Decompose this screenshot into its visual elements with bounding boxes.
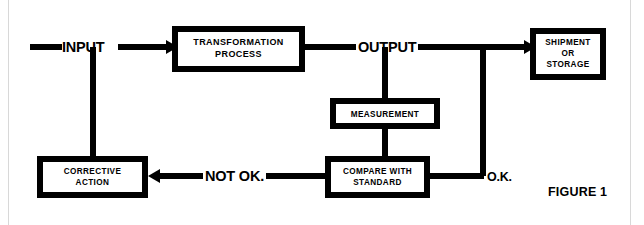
node-transformation-process-line-2: PROCESS (215, 49, 262, 59)
flow-label-not-ok: NOT OK. (205, 168, 264, 184)
node-compare-with-standard-line-1: COMPARE WITH (343, 167, 412, 176)
flow-label-output: OUTPUT (358, 39, 417, 55)
node-measurement[interactable]: MEASUREMENT (333, 101, 437, 126)
node-compare-with-standard-line-2: STANDARD (353, 178, 402, 187)
node-shipment-or-storage-line-1: SHIPMENT (545, 38, 591, 47)
node-shipment-or-storage-line-2: OR (561, 49, 574, 58)
node-compare-with-standard[interactable]: COMPARE WITH STANDARD (328, 159, 427, 195)
node-compare-with-standard-frame (328, 159, 427, 195)
node-shipment-or-storage-line-3: STORAGE (546, 60, 589, 69)
node-measurement-label: MEASUREMENT (351, 110, 420, 119)
figure-canvas: TRANSFORMATION PROCESS SHIPMENT OR STORA… (0, 0, 644, 225)
node-transformation-process-line-1: TRANSFORMATION (193, 37, 283, 47)
arrowhead-into-corrective-action (148, 169, 160, 183)
flow-label-input: INPUT (62, 39, 105, 55)
figure-caption: FIGURE 1 (548, 185, 607, 199)
flow-label-ok: O.K. (487, 170, 512, 184)
node-shipment-or-storage[interactable]: SHIPMENT OR STORAGE (533, 31, 603, 77)
node-corrective-action[interactable]: CORRECTIVE ACTION (40, 159, 145, 195)
node-corrective-action-line-1: CORRECTIVE (64, 167, 122, 176)
node-transformation-process[interactable]: TRANSFORMATION PROCESS (175, 29, 302, 69)
node-corrective-action-line-2: ACTION (76, 178, 110, 187)
node-corrective-action-frame (40, 159, 145, 195)
flow-diagram: TRANSFORMATION PROCESS SHIPMENT OR STORA… (0, 0, 644, 225)
